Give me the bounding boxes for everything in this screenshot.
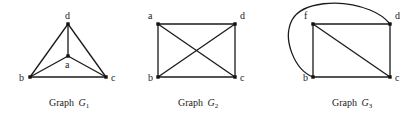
edge-d-c [68, 24, 106, 77]
node-d [388, 22, 391, 25]
caption-g2: Graph G2 [178, 97, 219, 110]
node-b [28, 75, 31, 78]
node-b [311, 75, 314, 78]
label-c: c [111, 72, 116, 83]
node-d [66, 22, 69, 25]
node-a [66, 54, 69, 57]
node-f [311, 22, 314, 25]
label-a: a [65, 59, 70, 70]
edge-a-c [68, 56, 106, 77]
graph-g3: f d b c Graph G3 [289, 3, 400, 110]
node-c [104, 75, 107, 78]
edge-a-b [30, 56, 68, 77]
node-d [233, 22, 236, 25]
label-b: b [303, 72, 308, 83]
edge-d-b [30, 24, 68, 77]
label-c: c [240, 72, 245, 83]
label-b: b [19, 72, 24, 83]
node-b [156, 75, 159, 78]
edge-f-c [313, 24, 390, 77]
graph-g2: a d b c Graph G2 [148, 10, 245, 110]
node-c [233, 75, 236, 78]
label-d: d [240, 10, 245, 21]
node-a [156, 22, 159, 25]
node-c [388, 75, 391, 78]
label-a: a [148, 10, 153, 21]
caption-g3: Graph G3 [332, 97, 373, 110]
label-f: f [304, 10, 308, 21]
label-d: d [65, 10, 70, 21]
label-d: d [395, 10, 400, 21]
label-b: b [148, 72, 153, 83]
graph-g1: d a b c Graph G1 [19, 10, 116, 110]
graphs-figure: d a b c Graph G1 a d b c Graph G2 [0, 0, 420, 117]
caption-g1: Graph G1 [49, 97, 90, 110]
label-c: c [395, 72, 400, 83]
